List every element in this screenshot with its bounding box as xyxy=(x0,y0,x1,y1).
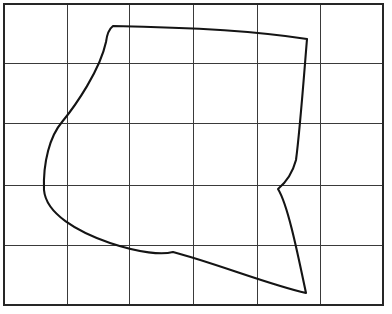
closed-outline-curve xyxy=(44,26,307,293)
grid-shape-figure xyxy=(0,0,392,314)
grid-vertical-lines xyxy=(4,4,383,305)
figure-root xyxy=(0,0,392,314)
